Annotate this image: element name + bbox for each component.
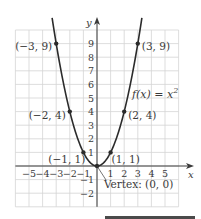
y-tick-label: 1: [88, 147, 94, 158]
function-label-text: f(x) = x: [131, 88, 174, 101]
x-tick-label: −4: [36, 168, 50, 179]
y-tick-label: −1: [80, 174, 94, 185]
y-tick-label: 7: [88, 65, 94, 76]
chart-canvas: x y −5−4−3−2−112345−2−1123456789 (−3, 9)…: [0, 0, 201, 219]
y-tick-label: 8: [88, 52, 94, 63]
data-point-marker: [54, 41, 58, 45]
y-tick-label: −2: [80, 188, 94, 199]
point-label: (1, 1): [112, 153, 140, 165]
y-tick-label: 4: [88, 106, 94, 117]
y-tick-label: 2: [88, 133, 94, 144]
vertex-annotation: Vertex: (0, 0): [103, 178, 173, 190]
x-axis-label: x: [188, 169, 194, 180]
point-label: (−1, 1): [48, 153, 85, 165]
point-label: (−3, 9): [15, 40, 52, 52]
y-tick-label: 5: [88, 93, 94, 104]
x-tick-label: −5: [22, 168, 36, 179]
function-label-exponent: 2: [172, 86, 178, 95]
y-tick-label: 6: [88, 79, 94, 90]
data-point-marker: [68, 109, 72, 113]
x-tick-label: −2: [63, 168, 77, 179]
decorative-bar: [105, 216, 195, 219]
data-point-marker: [136, 41, 140, 45]
point-label: (3, 9): [142, 40, 170, 52]
y-tick-label: 9: [88, 38, 94, 49]
data-point-marker: [122, 109, 126, 113]
function-label: f(x) = x2: [131, 86, 178, 101]
x-tick-label: −3: [49, 168, 63, 179]
y-axis-label: y: [85, 17, 92, 28]
point-label: (2, 4): [128, 109, 156, 121]
point-label: (−2, 4): [29, 109, 66, 121]
parabola-chart: x y −5−4−3−2−112345−2−1123456789 (−3, 9)…: [0, 0, 201, 219]
y-tick-label: 3: [88, 120, 94, 131]
